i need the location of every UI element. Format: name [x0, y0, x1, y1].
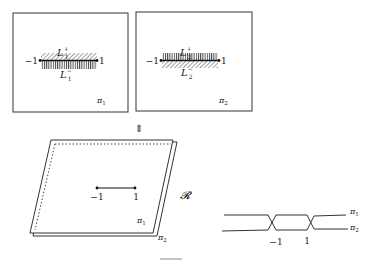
- branch-point-right: [218, 59, 221, 62]
- sheet-1-plane: [30, 140, 173, 233]
- left-endpoint-label: −1: [146, 56, 159, 66]
- right-endpoint-label: 1: [99, 56, 105, 66]
- sheet-2-curve: [222, 215, 348, 231]
- lower-edge-label: L−1: [59, 67, 72, 82]
- upper-edge-label: L+1: [56, 45, 69, 60]
- sheet-1-curve: [224, 215, 346, 230]
- upper-hatch-diagonal: [41, 53, 97, 60]
- left-endpoint-label: −1: [25, 56, 38, 66]
- sheet-2-panel: −1 1 L+2 L−2 π2: [136, 12, 252, 111]
- branch-point-left: [96, 187, 99, 190]
- branch-point-left: [39, 59, 42, 62]
- sheet-2-label: π2: [157, 233, 167, 243]
- branch-point-right: [96, 59, 99, 62]
- branch-point-right: [134, 187, 137, 190]
- sheet-2-label: π2: [218, 96, 228, 106]
- curve-1-label: π1: [349, 207, 359, 217]
- right-crossing-label: 1: [304, 236, 310, 246]
- branch-point-left: [160, 59, 163, 62]
- right-endpoint-label: 1: [221, 56, 227, 66]
- lower-edge-label: L−2: [180, 65, 193, 80]
- left-endpoint-label: −1: [90, 192, 103, 202]
- sheet-1-label: π1: [96, 96, 106, 106]
- sheet-crossing-diagram: −1 1 π1 π2: [222, 207, 359, 247]
- riemann-surface: −1 1 𝓡 π1 π2: [30, 140, 192, 243]
- curve-2-label: π2: [349, 223, 359, 233]
- right-endpoint-label: 1: [133, 192, 139, 202]
- riemann-surface-diagram: −1 1 L+1 L−1 π1 −1 1 L+2 L−2 π2 ⇕: [0, 0, 373, 261]
- upper-edge-label: L+2: [179, 45, 192, 60]
- double-arrow-icon: ⇕: [135, 123, 143, 134]
- surface-label: 𝓡: [180, 189, 192, 202]
- left-crossing-label: −1: [269, 237, 282, 247]
- sheet-1-panel: −1 1 L+1 L−1 π1: [13, 13, 128, 112]
